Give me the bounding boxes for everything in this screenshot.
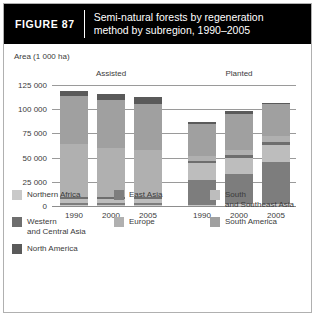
plot-area: 025 00050 00075 000100 000125 000Assiste… [52, 85, 296, 206]
bar-segment [60, 144, 88, 197]
legend-item[interactable]: Europe [114, 217, 210, 236]
legend-row: North America [12, 244, 297, 254]
legend-swatch [12, 244, 22, 254]
legend-label-line2: and Southeast Asia [225, 200, 294, 210]
chart-area: Area (1 000 ha) 025 00050 00075 000100 0… [4, 44, 311, 309]
figure-title: Semi-natural forests by regeneration met… [85, 11, 268, 37]
y-axis-tick-label: 100 000 [18, 105, 47, 114]
legend-label-line1: South America [225, 217, 277, 227]
y-axis-tick-label: 50 000 [23, 153, 47, 162]
legend-item-label: Westernand Central Asia [27, 217, 86, 236]
y-axis-tick-label: 25 000 [23, 177, 47, 186]
bar-segment [225, 158, 253, 174]
figure-header: FIGURE 87 Semi-natural forests by regene… [4, 4, 311, 44]
figure-number: FIGURE 87 [4, 18, 84, 30]
legend-swatch [210, 217, 220, 227]
figure-container: FIGURE 87 Semi-natural forests by regene… [0, 0, 315, 316]
gridline [52, 109, 296, 110]
bar-segment [97, 100, 125, 147]
legend-item[interactable]: Southand Southeast Asia [210, 190, 297, 209]
legend-row: Northern AfricaEast AsiaSouthand Southea… [12, 190, 297, 209]
legend-label-line1: East Asia [129, 190, 162, 200]
legend-label-line1: Europe [129, 217, 155, 227]
bar-group-label: Assisted [96, 69, 126, 78]
legend-swatch [114, 217, 124, 227]
legend-item-label: Southand Southeast Asia [225, 190, 294, 209]
chart-legend: Northern AfricaEast AsiaSouthand Southea… [12, 190, 297, 262]
legend-label-line1: Western [27, 217, 86, 227]
legend-item-label: North America [27, 244, 78, 254]
gridline [52, 133, 296, 134]
legend-item-label: South America [225, 217, 277, 227]
legend-item-label: East Asia [129, 190, 162, 200]
legend-label-line1: Northern Africa [27, 190, 80, 200]
legend-swatch [114, 190, 124, 200]
legend-item[interactable]: North America [12, 244, 114, 254]
bar-segment [188, 124, 216, 156]
bar-segment [134, 97, 162, 104]
gridline [52, 182, 296, 183]
bar-group-label: Planted [225, 69, 252, 78]
bar-segment [262, 104, 290, 136]
y-axis-title: Area (1 000 ha) [14, 52, 70, 61]
bar-segment [262, 145, 290, 162]
legend-swatch [12, 217, 22, 227]
legend-item-label: Europe [129, 217, 155, 227]
bar-segment [188, 163, 216, 180]
legend-item[interactable]: Northern Africa [12, 190, 114, 209]
legend-item[interactable]: Westernand Central Asia [12, 217, 114, 236]
gridline [52, 158, 296, 159]
legend-label-line1: South [225, 190, 294, 200]
bar-stack [60, 91, 88, 206]
bar-segment [134, 104, 162, 150]
legend-swatch [12, 190, 22, 200]
legend-label-line2: and Central Asia [27, 227, 86, 237]
figure-title-line1: Semi-natural forests by regeneration [94, 11, 264, 24]
y-axis-tick-label: 75 000 [23, 129, 47, 138]
figure-title-line2: method by subregion, 1990–2005 [94, 24, 264, 37]
gridline [52, 85, 296, 86]
bar-segment [225, 114, 253, 150]
legend-item[interactable]: South America [210, 217, 297, 236]
y-axis-tick-label: 125 000 [18, 81, 47, 90]
legend-swatch [210, 190, 220, 200]
legend-label-line1: North America [27, 244, 78, 254]
legend-row: Westernand Central AsiaEuropeSouth Ameri… [12, 217, 297, 236]
legend-item[interactable]: East Asia [114, 190, 210, 209]
bar-segment [60, 96, 88, 143]
legend-item-label: Northern Africa [27, 190, 80, 200]
